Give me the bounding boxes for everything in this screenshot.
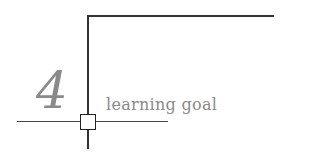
top-rule [87,15,274,17]
section-number: 4 [36,66,68,116]
section-label: learning goal [106,97,217,113]
corner-square-icon [80,114,96,130]
